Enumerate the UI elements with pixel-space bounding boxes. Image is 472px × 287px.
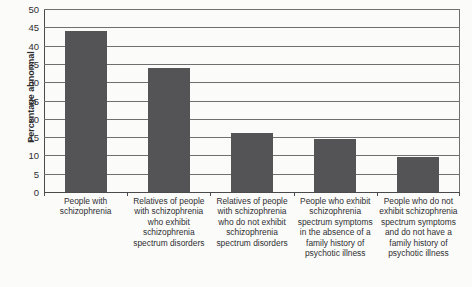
y-tick-label-20: 20 (28, 113, 39, 124)
y-tick-label-5: 5 (34, 168, 39, 179)
plot-area: 05101520253035404550 (44, 9, 460, 192)
bar (148, 68, 190, 192)
bar (65, 31, 107, 192)
y-tick-label-0: 0 (34, 187, 39, 198)
bar (397, 157, 439, 192)
y-tick-label-40: 40 (28, 40, 39, 51)
y-tick-label-15: 15 (28, 132, 39, 143)
bar (231, 133, 273, 192)
bar (314, 139, 356, 192)
bar-chart: Percentage abnormal 05101520253035404550… (0, 0, 472, 287)
gridline-0: 0 (44, 192, 460, 193)
y-tick-label-30: 30 (28, 77, 39, 88)
x-axis-category-label: Relatives of people with schizophrenia w… (127, 196, 210, 284)
y-tick-label-50: 50 (28, 4, 39, 15)
y-tick-label-10: 10 (28, 150, 39, 161)
bars-layer (44, 9, 460, 192)
x-axis-category-label: Relatives of people with schizophrenia w… (210, 196, 293, 284)
y-tick-label-45: 45 (28, 22, 39, 33)
x-axis-category-label: People with schizophrenia (44, 196, 127, 284)
x-axis-category-label: People who do not exhibit schizophrenia … (377, 196, 460, 284)
x-axis-labels: People with schizophreniaRelatives of pe… (44, 196, 460, 284)
y-tick-label-35: 35 (28, 58, 39, 69)
x-axis-category-label: People who exhibit schizophrenia spectru… (294, 196, 377, 284)
y-tick-label-25: 25 (28, 95, 39, 106)
